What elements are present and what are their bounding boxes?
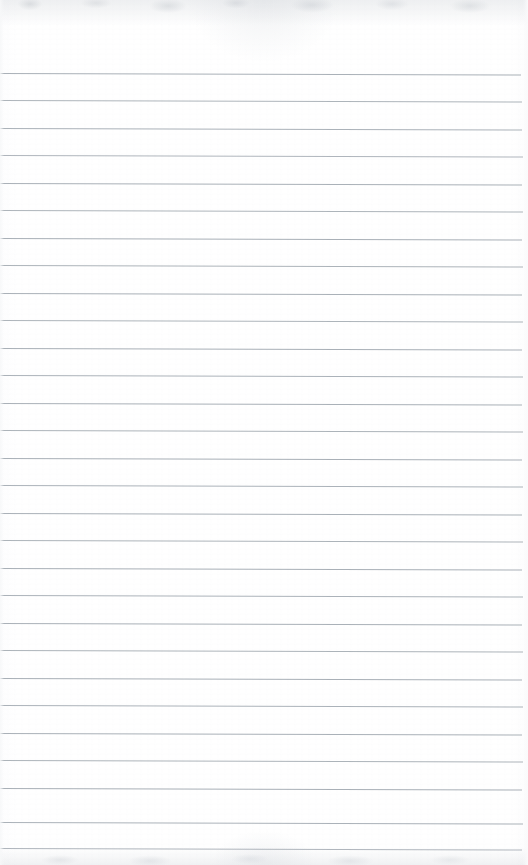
paper-background [0, 0, 528, 865]
scanned-page [0, 0, 528, 865]
